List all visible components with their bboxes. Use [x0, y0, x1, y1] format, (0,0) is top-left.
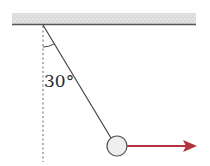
angle-arc — [43, 44, 54, 47]
pendulum-ball — [107, 136, 127, 156]
ceiling — [12, 13, 196, 25]
angle-label: 30° — [44, 73, 74, 90]
pendulum-diagram — [0, 0, 210, 166]
force-arrow — [127, 140, 197, 152]
